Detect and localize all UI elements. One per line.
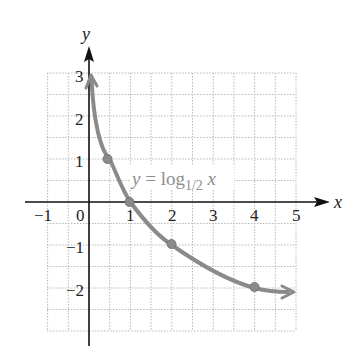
y-tick-label: 2 [75, 110, 84, 129]
y-tick-label: −1 [66, 238, 84, 257]
eq-var-x: x [203, 168, 217, 189]
point-2-neg1 [167, 240, 176, 249]
x-tick-label: 2 [168, 206, 177, 225]
x-tick-label: 3 [209, 206, 218, 225]
x-tick-label: 5 [292, 206, 301, 225]
eq-base: 1/2 [185, 178, 203, 193]
x-tick-label: −1 [34, 206, 52, 225]
point-4-neg2 [250, 283, 259, 292]
x-tick-label: 4 [250, 206, 259, 225]
y-tick-label: −2 [66, 281, 84, 300]
y-tick-label: 1 [75, 152, 84, 171]
equation-label: y = log1/2 x [130, 166, 234, 193]
y-tick-label: 3 [75, 67, 84, 86]
point-half-1 [103, 155, 112, 164]
eq-log: = log [140, 168, 185, 189]
x-tick-labels: −1 0 1 2 3 4 5 [34, 206, 301, 225]
point-1-0 [125, 198, 134, 207]
chart-root: x y −1 0 1 2 3 4 5 3 2 1 −1 −2 y = log1/… [0, 0, 354, 360]
x-tick-label: 0 [76, 206, 85, 225]
y-axis-label: y [80, 24, 90, 44]
x-axis-label: x [333, 192, 342, 212]
eq-var-y: y [130, 168, 141, 189]
